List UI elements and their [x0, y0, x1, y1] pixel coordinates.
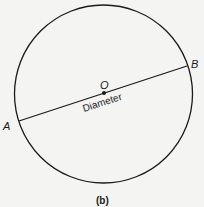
center-point [102, 91, 106, 95]
diameter-diagram: O A B Diameter (b) [0, 0, 204, 207]
point-b-label: B [191, 58, 198, 70]
point-a-label: A [2, 120, 10, 132]
figure-caption: (b) [96, 195, 109, 206]
center-label: O [100, 79, 109, 91]
